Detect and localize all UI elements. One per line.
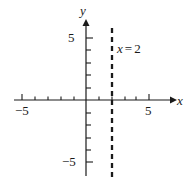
y-tick-label-minus-5: −5 — [62, 155, 76, 168]
coordinate-plane — [0, 0, 196, 183]
x-axis-label: x — [177, 94, 183, 107]
y-tick-label-plus-5: 5 — [68, 31, 75, 44]
graph-figure: y x −5 5 5 −5 x=2 — [0, 0, 196, 183]
y-axis-arrowhead — [83, 19, 90, 26]
equation-value: 2 — [134, 41, 141, 56]
equation-equals-sign: = — [123, 41, 134, 56]
equation-variable: x — [117, 41, 123, 56]
x-tick-label-minus-5: −5 — [15, 104, 29, 117]
x-axis-arrowhead — [170, 97, 177, 104]
equation-annotation: x=2 — [117, 42, 141, 55]
x-tick-label-plus-5: 5 — [145, 104, 152, 117]
y-axis-label: y — [80, 4, 86, 17]
